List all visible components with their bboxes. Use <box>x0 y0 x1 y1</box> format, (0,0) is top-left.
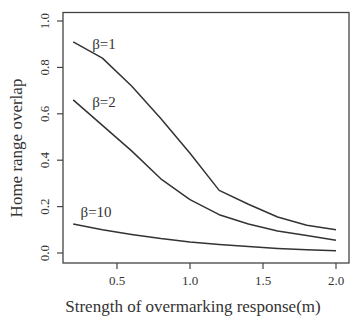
series-label-0: β=1 <box>92 36 116 52</box>
series-label-2: β=10 <box>81 204 112 220</box>
series-line-1 <box>73 100 336 240</box>
y-tick-label: 0.0 <box>37 245 52 261</box>
series-lines <box>73 42 336 251</box>
series-line-0 <box>73 42 336 230</box>
x-tick-label: 2.0 <box>328 273 344 288</box>
series-line-2 <box>73 224 336 251</box>
x-axis-label: Strength of overmarking response(m) <box>65 297 320 316</box>
y-tick-label: 0.2 <box>37 198 52 214</box>
y-axis: 0.00.20.40.60.81.0 <box>37 13 63 261</box>
y-tick-label: 1.0 <box>37 13 52 29</box>
series-label-1: β=2 <box>92 94 116 110</box>
y-tick-label: 0.4 <box>37 152 52 169</box>
series-labels: β=1β=2β=10 <box>81 36 116 220</box>
y-tick-label: 0.6 <box>37 105 52 122</box>
x-tick-label: 1.0 <box>182 273 198 288</box>
x-tick-label: 1.5 <box>255 273 271 288</box>
x-axis: 0.51.01.52.0 <box>109 263 344 288</box>
y-tick-label: 0.8 <box>37 59 52 75</box>
y-axis-label: Home range overlap <box>7 79 26 218</box>
line-chart: 0.51.01.52.0 0.00.20.40.60.81.0 β=1β=2β=… <box>0 0 358 324</box>
x-tick-label: 0.5 <box>109 273 125 288</box>
